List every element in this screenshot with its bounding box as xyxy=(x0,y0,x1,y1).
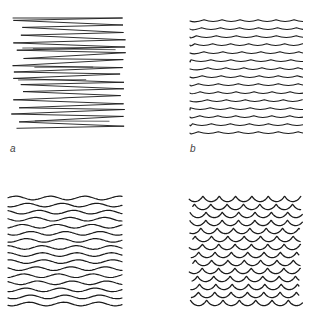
panel-a xyxy=(8,14,128,134)
squiggle-texture-d xyxy=(188,192,303,310)
panel-c xyxy=(6,192,124,310)
panel-label-a: a xyxy=(10,143,16,154)
zigzag-texture-a xyxy=(8,14,128,134)
panel-label-b: b xyxy=(190,143,196,154)
sine-texture-c xyxy=(6,192,124,310)
panel-d xyxy=(188,192,303,310)
panel-b xyxy=(188,16,303,138)
wavy-texture-b xyxy=(188,16,303,138)
